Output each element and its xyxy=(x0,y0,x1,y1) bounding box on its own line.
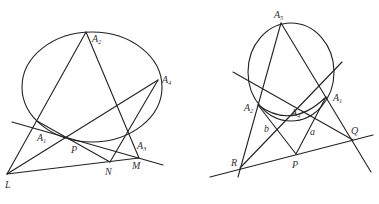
line-A2-M xyxy=(86,32,139,158)
label-A4: A4 xyxy=(161,74,172,86)
label-N: N xyxy=(104,166,113,177)
line-A5-R xyxy=(238,23,281,177)
label-b: b xyxy=(264,123,269,134)
label-L: L xyxy=(4,179,11,190)
label-A4-right: A4 xyxy=(290,107,301,119)
diagram-canvas: A1 A2 A3 A4 P N M L xyxy=(0,0,379,204)
geometry-figures: A1 A2 A3 A4 P N M L xyxy=(0,0,379,204)
label-P-left: P xyxy=(70,144,77,155)
label-A5: A5 xyxy=(273,9,284,21)
label-A2-right: A2 xyxy=(243,102,254,114)
line-A4-N xyxy=(110,80,158,162)
label-a: a xyxy=(310,126,315,137)
label-P-right: P xyxy=(291,159,298,170)
line-R-P-Q xyxy=(210,135,373,177)
left-figure: A1 A2 A3 A4 P N M L xyxy=(4,32,172,190)
label-A1-right: A1 xyxy=(332,92,342,104)
label-Q: Q xyxy=(351,125,359,136)
right-figure: A5 A2 A4 A1 Q P R b a xyxy=(210,9,373,177)
label-A1: A1 xyxy=(36,132,46,144)
label-A2: A2 xyxy=(91,33,102,45)
label-R: R xyxy=(230,157,237,168)
line-L-M xyxy=(7,158,139,174)
label-M: M xyxy=(131,160,141,171)
label-A3: A3 xyxy=(136,140,147,152)
left-ellipse xyxy=(22,32,162,142)
